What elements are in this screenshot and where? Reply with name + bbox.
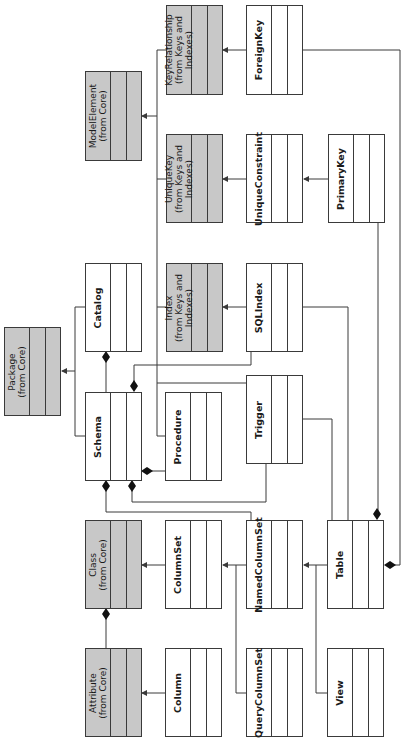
class-box-class: Class (from Core) [85,520,142,609]
operations-compartment [46,328,61,415]
class-box-sql-index: SQLIndex [246,263,303,352]
operations-compartment [288,521,303,608]
operations-compartment [127,649,142,736]
operations-compartment [127,264,142,351]
attributes-compartment [191,393,207,480]
attributes-compartment [111,649,127,736]
class-box-column-set: ColumnSet [165,520,222,609]
attributes-compartment [353,649,369,736]
class-name: UniqueKey (from Keys and Indexes) [164,144,194,212]
operations-compartment [127,521,142,608]
attributes-compartment [272,264,288,351]
attributes-compartment [272,649,288,736]
class-name: Index (from Keys and Indexes) [164,273,194,341]
class-name: ModelElement (from Core) [88,84,108,148]
class-name: Trigger [254,400,264,438]
operations-compartment [288,376,303,463]
class-box-column: Column [165,648,222,737]
operations-compartment [369,521,384,608]
operations-compartment [208,264,223,351]
operations-compartment [127,393,142,480]
attributes-compartment [111,264,127,351]
class-name: ColumnSet [173,535,183,593]
operations-compartment [288,6,303,94]
attributes-compartment [192,6,208,94]
attributes-compartment [191,521,207,608]
class-box-trigger: Trigger [246,375,303,464]
class-box-view: View [327,648,384,737]
class-box-package: Package (from Core) [4,327,61,416]
operations-compartment [369,649,384,736]
class-box-attribute: Attribute (from Core) [85,648,142,737]
operations-compartment [288,135,303,222]
operations-compartment [288,264,303,351]
attributes-compartment [272,135,288,222]
class-name: QueryColumnSet [254,647,264,737]
class-box-unique-key: UniqueKey (from Keys and Indexes) [166,134,223,223]
class-name: View [335,680,345,706]
class-name: SQLIndex [254,282,264,333]
operations-compartment [288,649,303,736]
class-name: Schema [93,416,103,458]
class-name: Procedure [173,409,183,464]
class-box-model-element: ModelElement (from Core) [85,71,142,161]
attributes-compartment [353,521,369,608]
class-name: Class (from Core) [88,539,108,591]
class-box-key-relationship: KeyRelationship (from Keys and Indexes) [166,5,223,95]
operations-compartment [207,649,222,736]
class-box-unique-constraint: UniqueConstraint [246,134,303,223]
class-name: NamedColumnSet [254,517,264,613]
operations-compartment [207,521,222,608]
class-box-table: Table [327,520,384,609]
attributes-compartment [111,393,127,480]
operations-compartment [208,6,223,94]
class-box-primary-key: PrimaryKey [328,134,385,223]
uml-class-diagram: KeyRelationship (from Keys and Indexes) … [0,0,405,739]
attributes-compartment [30,328,46,415]
attributes-compartment [192,264,208,351]
attributes-compartment [192,135,208,222]
class-box-query-column-set: QueryColumnSet [246,648,303,737]
operations-compartment [127,72,142,160]
class-name: Catalog [93,287,103,328]
class-box-procedure: Procedure [165,392,222,481]
class-name: Attribute (from Core) [88,667,108,719]
attributes-compartment [111,72,127,160]
attributes-compartment [272,376,288,463]
class-name: Table [335,550,345,578]
class-name: Column [173,672,183,712]
attributes-compartment [272,6,288,94]
attributes-compartment [111,521,127,608]
class-name: PrimaryKey [336,148,346,210]
class-box-schema: Schema [85,392,142,481]
operations-compartment [208,135,223,222]
operations-compartment [207,393,222,480]
class-box-index: Index (from Keys and Indexes) [166,263,223,352]
attributes-compartment [354,135,370,222]
attributes-compartment [272,521,288,608]
operations-compartment [370,135,385,222]
attributes-compartment [191,649,207,736]
class-name: UniqueConstraint [254,132,264,226]
class-box-named-column-set: NamedColumnSet [246,520,303,609]
class-box-catalog: Catalog [85,263,142,352]
class-name: Package (from Core) [7,346,27,398]
class-name: ForeignKey [254,20,264,80]
class-name: KeyRelationship (from Keys and Indexes) [164,14,194,86]
class-box-foreign-key: ForeignKey [246,5,303,95]
